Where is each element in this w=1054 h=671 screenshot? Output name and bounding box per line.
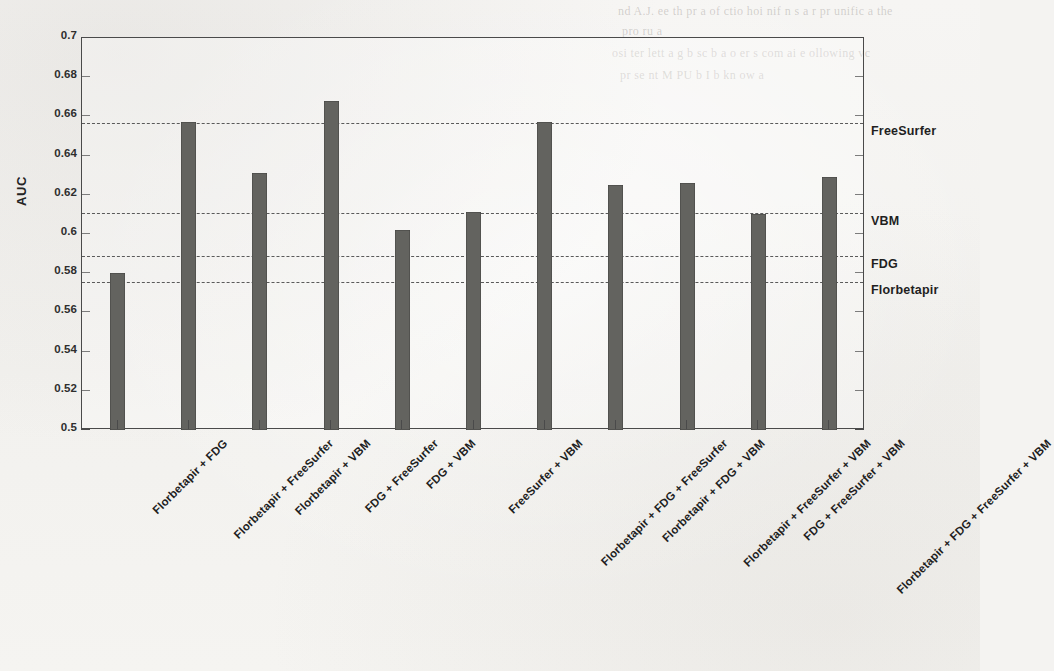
y-axis-tick-label: 0.56 <box>54 303 77 315</box>
x-axis-tick-label: Florbetapir + FreeSurfer + VBM <box>741 437 873 569</box>
y-axis-tick-label: 0.7 <box>61 29 77 41</box>
bleed-text-line-1: nd A.J. ee th pr a of ctio hoi nif n s a… <box>618 4 893 19</box>
reference-line-freesurfer <box>82 123 863 124</box>
bar <box>110 273 125 430</box>
y-axis-title: AUC <box>14 176 29 206</box>
bar <box>608 185 623 430</box>
x-axis-tick <box>117 420 118 429</box>
y-axis-tick-right <box>855 429 864 430</box>
reference-label-freesurfer: FreeSurfer <box>871 124 936 138</box>
bar <box>466 212 481 430</box>
y-axis-tick-label: 0.52 <box>54 382 77 394</box>
x-axis-tick-label: Florbetapir + FDG + FreeSurfer + VBM <box>895 437 1054 596</box>
x-axis-tick <box>615 420 616 429</box>
x-axis-tick-label: Florbetapir + VBM <box>293 437 373 517</box>
y-axis-tick-label: 0.64 <box>54 147 77 159</box>
bar <box>822 177 837 430</box>
plot-area <box>81 37 864 429</box>
bar <box>395 230 410 430</box>
x-axis-tick-label: Florbetapir + FDG <box>150 437 229 516</box>
x-axis-tick-label: FreeSurfer + VBM <box>506 437 585 516</box>
y-axis-tick-label: 0.54 <box>54 343 77 355</box>
bar <box>181 122 196 430</box>
x-axis-tick <box>188 420 189 429</box>
x-axis-tick <box>828 420 829 429</box>
bar <box>252 173 267 430</box>
bar <box>751 214 766 430</box>
x-axis-tick <box>473 420 474 429</box>
x-axis-tick <box>544 420 545 429</box>
x-axis-tick <box>686 420 687 429</box>
y-axis-tick-label: 0.5 <box>61 421 77 433</box>
reference-label-fdg: FDG <box>871 257 898 271</box>
y-axis-tick-label: 0.66 <box>54 107 77 119</box>
y-axis-tick-label: 0.68 <box>54 68 77 80</box>
reference-label-vbm: VBM <box>871 214 899 228</box>
y-axis-tick-label: 0.6 <box>61 225 77 237</box>
x-axis-tick <box>330 420 331 429</box>
x-axis-tick <box>401 420 402 429</box>
y-axis-tick <box>81 429 90 430</box>
y-axis-tick-label: 0.62 <box>54 186 77 198</box>
x-axis-tick <box>757 420 758 429</box>
bar <box>537 122 552 430</box>
reference-label-florbetapir: Florbetapir <box>871 283 938 297</box>
y-axis-tick-label: 0.58 <box>54 264 77 276</box>
bar <box>324 101 339 430</box>
bar <box>680 183 695 430</box>
x-axis-tick <box>259 420 260 429</box>
